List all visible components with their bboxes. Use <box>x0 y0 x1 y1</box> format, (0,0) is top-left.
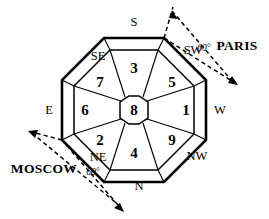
angle-label-moscow: 60° <box>86 167 100 177</box>
city-label-paris: PARIS <box>216 38 257 53</box>
moscow-arrowhead-lower <box>114 203 124 212</box>
sector-number-n: 4 <box>130 145 138 161</box>
direction-label-e: E <box>45 103 53 117</box>
moscow-arrowhead-upper <box>28 130 38 138</box>
direction-label-n: N <box>134 179 143 193</box>
compass-diagram: 1 5 3 7 6 2 4 9 8 S SW W NW N NE E SE <box>0 0 269 219</box>
sector-number-se: 7 <box>96 74 104 90</box>
sector-number-sw: 5 <box>168 74 176 90</box>
sector-number-ne: 2 <box>96 132 104 148</box>
center-number: 8 <box>130 102 138 118</box>
direction-label-s: S <box>131 15 138 29</box>
direction-label-se: SE <box>91 49 106 63</box>
sector-number-s: 3 <box>130 60 138 76</box>
direction-label-w: W <box>214 103 226 117</box>
direction-label-ne: NE <box>90 150 107 164</box>
sector-number-nw: 9 <box>168 132 176 148</box>
city-label-moscow: MOSCOW <box>11 161 78 176</box>
paris-arrowhead-lower <box>228 76 238 85</box>
compass-diagram-canvas: 1 5 3 7 6 2 4 9 8 S SW W NW N NE E SE <box>0 0 269 219</box>
direction-label-nw: NW <box>187 149 208 163</box>
sector-number-e: 6 <box>81 102 89 118</box>
sector-number-w: 1 <box>182 102 190 118</box>
angle-label-paris: 60° <box>197 43 211 53</box>
